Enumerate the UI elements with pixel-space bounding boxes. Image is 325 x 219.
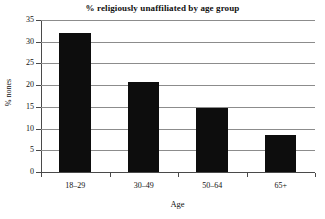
x-tick-mark [178, 173, 179, 177]
x-tick-label: 50–64 [182, 181, 242, 191]
x-axis-label: Age [40, 199, 315, 209]
bar [59, 33, 91, 172]
y-axis-label: % nones [4, 61, 13, 125]
x-tick-label: 30–49 [114, 181, 174, 191]
bar [128, 82, 160, 172]
bar [196, 108, 228, 172]
x-tick-mark [41, 173, 42, 177]
y-tick-label: 10 [14, 125, 34, 133]
y-tick-label: 25 [14, 59, 34, 67]
y-tick-label: 15 [14, 103, 34, 111]
bar [265, 135, 297, 172]
bar-chart: % religiously unaffiliated by age group … [0, 0, 325, 219]
chart-title: % religiously unaffiliated by age group [0, 3, 325, 13]
y-tick-label: 35 [14, 16, 34, 24]
plot-area [41, 20, 315, 172]
gridline [41, 20, 315, 21]
y-tick-label: 5 [14, 146, 34, 154]
x-tick-label: 18–29 [45, 181, 105, 191]
y-tick-label: 0 [14, 168, 34, 176]
x-tick-label: 65+ [251, 181, 311, 191]
x-tick-mark [247, 173, 248, 177]
y-tick-label: 20 [14, 81, 34, 89]
x-tick-mark [315, 173, 316, 177]
y-tick-label: 30 [14, 38, 34, 46]
x-tick-mark [110, 173, 111, 177]
